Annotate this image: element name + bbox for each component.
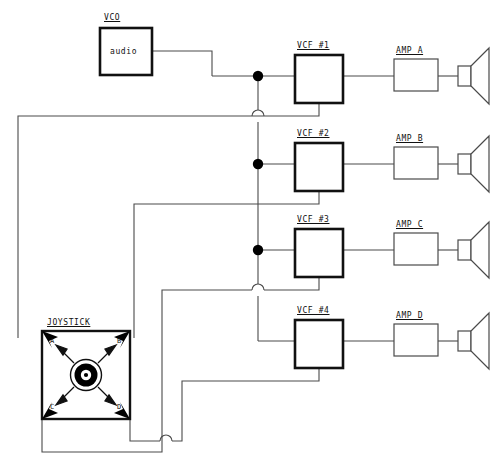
amp-c-box[interactable]: [394, 233, 438, 265]
vcf-4-label: VCF #4: [297, 306, 330, 315]
wire-ctrl-D-b: [130, 419, 160, 441]
junction-dot-vcf2: [253, 159, 263, 169]
vcf-3-label: VCF #3: [297, 215, 330, 224]
amp-d-label: AMP D: [396, 311, 423, 320]
vco-label: VCO: [104, 13, 120, 22]
joystick-corner-label-b: B: [117, 337, 121, 345]
amp-c-label: AMP C: [396, 220, 423, 229]
vcf-1-box[interactable]: [295, 55, 343, 103]
amp-d-box[interactable]: [394, 324, 438, 356]
joystick-knob-center-dot: [84, 373, 88, 377]
wire-ctrl-C-a: [264, 277, 319, 290]
junction-dot-vcf3: [253, 245, 263, 255]
wire-ctrl-D-a: [172, 368, 319, 441]
vcf-3-box[interactable]: [295, 229, 343, 277]
vcf-2-label: VCF #2: [297, 129, 330, 138]
amp-b-box[interactable]: [394, 147, 438, 179]
speaker-group: [458, 48, 489, 369]
joystick-label: JOYSTICK: [47, 318, 90, 327]
schematic-canvas: VCO audio VCF #1 VCF #2 VCF #3 VCF #4 AM…: [0, 0, 501, 472]
joystick-corner-label-d: D: [117, 403, 121, 411]
wire-hop-bus-ctrlC: [252, 284, 264, 290]
vcf-2-box[interactable]: [295, 143, 343, 191]
vco-body-text: audio: [110, 47, 137, 56]
vcf-box-group: [295, 55, 343, 368]
schematic-vector-layer: [0, 0, 501, 472]
amp-b-label: AMP B: [396, 134, 423, 143]
speaker-4[interactable]: [458, 313, 489, 369]
vcf-4-box[interactable]: [295, 320, 343, 368]
speaker-3[interactable]: [458, 222, 489, 278]
joystick-corner-label-a: A: [50, 337, 54, 345]
wire-hop-bus-ctrlA: [252, 110, 264, 116]
amp-a-box[interactable]: [394, 59, 438, 91]
speaker-2[interactable]: [458, 136, 489, 192]
wire-vco-to-bus: [152, 51, 212, 76]
amp-a-label: AMP A: [396, 46, 423, 55]
joystick-knob[interactable]: [71, 360, 102, 391]
joystick-corner-label-c: C: [50, 403, 54, 411]
vcf-1-label: VCF #1: [297, 41, 330, 50]
wire-ctrl-A: [18, 103, 319, 338]
junction-dot-vcf1: [253, 71, 263, 81]
speaker-1[interactable]: [458, 48, 489, 104]
